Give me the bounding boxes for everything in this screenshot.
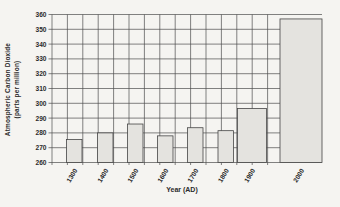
bar-1300 — [67, 140, 83, 163]
y-tick-label-260: 260 — [35, 159, 46, 166]
x-axis-title: Year (AD) — [142, 186, 222, 193]
y-tick-label-300: 300 — [35, 100, 46, 107]
x-tick-label-1800: 1800 — [216, 167, 230, 183]
bar-1500 — [128, 124, 144, 162]
y-tick-label-340: 340 — [35, 41, 46, 48]
y-tick-label-350: 350 — [35, 26, 46, 33]
co2-bar-chart-figure: 2602702802903003103203303403503601300140… — [0, 0, 340, 207]
y-axis-title-line1: Atmospheric Carbon Dioxide — [4, 15, 13, 165]
y-tick-label-270: 270 — [35, 144, 46, 151]
x-tick-label-1500: 1500 — [126, 167, 140, 183]
y-axis-title-line2: (parts per million) — [12, 15, 21, 165]
x-tick-label-1400: 1400 — [96, 167, 110, 183]
y-tick-label-330: 330 — [35, 55, 46, 62]
bar-1600 — [158, 136, 174, 163]
x-tick-label-1300: 1300 — [65, 167, 79, 183]
y-tick-label-320: 320 — [35, 70, 46, 77]
y-axis-title: Atmospheric Carbon Dioxide (parts per mi… — [4, 15, 21, 165]
y-tick-label-290: 290 — [35, 115, 46, 122]
x-tick-label-1600: 1600 — [156, 167, 170, 183]
bar-1900 — [238, 108, 267, 162]
y-tick-label-360: 360 — [35, 11, 46, 18]
y-tick-label-310: 310 — [35, 85, 46, 92]
x-tick-label-2000: 2000 — [292, 167, 306, 183]
x-tick-label-1700: 1700 — [186, 167, 200, 183]
bar-1400 — [98, 133, 114, 163]
x-tick-label-1900: 1900 — [243, 167, 257, 183]
bar-1800 — [218, 131, 234, 163]
bar-2000 — [280, 19, 322, 163]
y-tick-label-280: 280 — [35, 129, 46, 136]
plot-area: 2602702802903003103203303403503601300140… — [0, 0, 340, 207]
bar-1700 — [188, 128, 204, 163]
